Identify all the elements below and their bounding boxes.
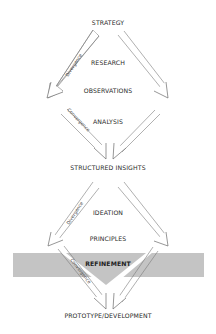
convergence-arrow-left-1	[61, 109, 106, 159]
stage-principles: PRINCIPLES	[0, 235, 216, 242]
stage-ideation: IDEATION	[0, 209, 216, 216]
stage-refinement: REFINEMENT	[0, 260, 216, 267]
stage-prototype-development: PROTOTYPE/DEVELOPMENT	[0, 312, 216, 319]
stage-observations: OBSERVATIONS	[0, 87, 216, 94]
stage-structured-insights: STRUCTURED INSIGHTS	[0, 164, 216, 171]
stage-strategy: STRATEGY	[0, 19, 216, 26]
stage-research: RESEARCH	[0, 59, 216, 66]
stage-analysis: ANALYSIS	[0, 118, 216, 125]
